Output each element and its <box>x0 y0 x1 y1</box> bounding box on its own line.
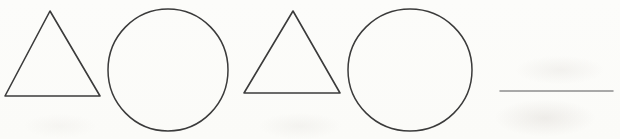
circle-shape-1 <box>108 9 228 131</box>
triangle-shape-2 <box>244 11 340 93</box>
shape-pattern-sequence <box>0 0 620 139</box>
scanned-worksheet-image <box>0 0 620 139</box>
circle-shape-2 <box>348 9 472 131</box>
triangle-shape-1 <box>5 11 100 96</box>
